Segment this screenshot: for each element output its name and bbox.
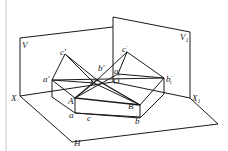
label-v1: V1 <box>180 32 189 43</box>
label-x1: X1 <box>191 93 201 104</box>
label-point-o: O <box>113 76 120 86</box>
label-proj-b1-prime: b'1 <box>166 74 173 85</box>
diagram-svg: V V1 H X X1 A B C O a b c a' b' c' a'1 b… <box>0 0 228 151</box>
projector-c-front <box>65 54 97 80</box>
edge-ac-horizontal <box>75 113 140 117</box>
label-proj-b: b <box>135 116 140 126</box>
triangle-auxiliary <box>118 52 164 78</box>
projector-a-aux <box>75 74 118 98</box>
label-point-b: B <box>128 101 134 111</box>
label-proj-a-prime: a' <box>43 74 51 84</box>
label-proj-c1-prime: c'1 <box>122 44 128 55</box>
label-point-a: A <box>67 96 74 106</box>
label-proj-c: c <box>87 113 91 123</box>
label-proj-a: a <box>69 110 74 120</box>
label-proj-b-prime: b' <box>98 63 106 73</box>
projection-diagram: V V1 H X X1 A B C O a b c a' b' c' a'1 b… <box>0 0 228 151</box>
b-link <box>140 94 164 118</box>
triangle-frontal <box>52 54 94 83</box>
label-point-c: C <box>90 78 97 88</box>
label-x: X <box>10 93 17 103</box>
label-h: H <box>73 138 81 148</box>
label-v: V <box>22 40 29 50</box>
label-proj-a1-prime: a'1 <box>114 66 121 77</box>
